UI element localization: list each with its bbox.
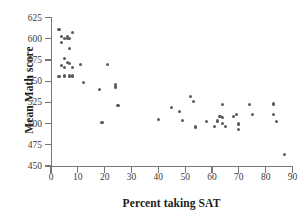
data-point <box>221 103 224 106</box>
data-point <box>68 47 71 50</box>
data-point <box>189 95 192 98</box>
data-point <box>116 104 119 107</box>
data-point <box>79 63 82 66</box>
data-point <box>63 57 66 60</box>
data-point <box>251 113 254 116</box>
data-point <box>216 119 219 122</box>
data-point <box>235 113 238 116</box>
data-point <box>63 66 66 69</box>
data-point <box>237 128 240 131</box>
scatter-chart: Mean Math score Percent taking SAT 45047… <box>0 0 303 221</box>
data-point <box>71 66 74 69</box>
data-point <box>114 85 117 88</box>
data-points-layer <box>0 0 303 221</box>
data-point <box>178 110 181 113</box>
data-point <box>170 106 173 109</box>
data-point <box>221 116 224 119</box>
data-point <box>283 153 286 156</box>
data-point <box>181 119 184 122</box>
data-point <box>237 123 240 126</box>
data-point <box>272 102 275 105</box>
data-point <box>248 103 251 106</box>
data-point <box>60 41 63 44</box>
data-point <box>63 74 66 77</box>
data-point <box>71 74 74 77</box>
data-point <box>192 100 195 103</box>
data-point <box>100 121 103 124</box>
data-point <box>157 118 160 121</box>
data-point <box>275 120 278 123</box>
data-point <box>272 113 275 116</box>
data-point <box>82 81 85 84</box>
data-point <box>68 37 71 40</box>
data-point <box>98 88 101 91</box>
data-point <box>194 125 197 128</box>
data-point <box>213 125 216 128</box>
data-point <box>205 120 208 123</box>
data-point <box>57 28 60 31</box>
data-point <box>106 63 109 66</box>
data-point <box>57 75 60 78</box>
data-point <box>224 125 227 128</box>
data-point <box>71 31 74 34</box>
data-point <box>68 62 71 65</box>
